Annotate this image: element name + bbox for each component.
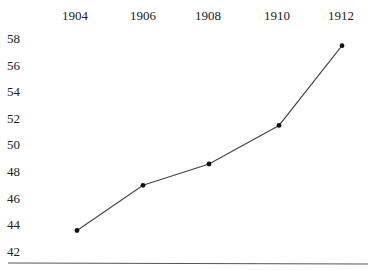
- data-point-marker: [141, 183, 146, 188]
- x-tick-label: 1912: [328, 8, 354, 23]
- data-point-marker: [277, 123, 282, 128]
- x-tick-label: 1906: [130, 8, 157, 23]
- y-tick-label: 54: [7, 84, 21, 99]
- x-tick-label: 1904: [62, 8, 89, 23]
- y-tick-label: 58: [7, 31, 20, 46]
- y-tick-label: 48: [7, 164, 20, 179]
- data-line: [77, 46, 342, 231]
- data-point-marker: [340, 43, 345, 48]
- line-chart: 19041906190819101912 585654525048464442: [0, 0, 368, 270]
- y-tick-label: 42: [7, 244, 20, 259]
- y-tick-label: 52: [7, 111, 20, 126]
- data-point-marker: [207, 162, 212, 167]
- y-tick-label: 50: [7, 137, 20, 152]
- x-axis-tick-labels: 19041906190819101912: [62, 8, 354, 23]
- y-axis-tick-labels: 585654525048464442: [7, 31, 21, 259]
- x-tick-label: 1910: [264, 8, 290, 23]
- x-tick-label: 1908: [195, 8, 221, 23]
- baseline-axis: [8, 263, 368, 264]
- y-tick-label: 46: [7, 191, 21, 206]
- y-tick-label: 56: [7, 58, 21, 73]
- data-point-marker: [75, 228, 80, 233]
- y-tick-label: 44: [7, 217, 21, 232]
